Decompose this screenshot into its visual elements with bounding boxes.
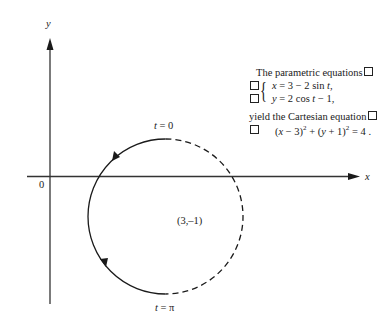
y-axis-arrow-icon [47, 38, 54, 50]
eq-y-end: − 1, [315, 93, 334, 104]
eq-part: + ( [307, 126, 322, 137]
t-pi-value: = π [161, 302, 175, 313]
eq-y-rhs: = 2 cos [277, 93, 313, 104]
origin-label: 0 [39, 180, 44, 191]
eq-part: − 3) [283, 126, 303, 137]
x-axis-arrow-icon [348, 173, 360, 180]
direction-arrow-icon [112, 151, 120, 161]
cartesian-equation: (x − 3)2 + (y + 1)2 = 4 . [275, 125, 371, 138]
placeholder-box-icon [368, 111, 377, 120]
eq-x-rhs: = 3 − 2 sin [277, 80, 327, 91]
annotation-line-1: The parametric equations [256, 67, 374, 79]
t-zero-value: = 0 [160, 120, 174, 131]
eq-x-end: , [330, 80, 333, 91]
circle-solid-arc [88, 139, 166, 294]
center-label: (3,–1) [177, 216, 202, 227]
annotation-box-row1 [249, 81, 260, 93]
y-axis-label: y [46, 19, 51, 30]
t-var: t [155, 302, 158, 313]
eq-part: = 4 . [349, 126, 371, 137]
brace-icon: { [260, 78, 267, 102]
placeholder-box-icon [250, 94, 259, 103]
placeholder-box-icon [250, 81, 259, 90]
eq-part: + 1) [326, 126, 346, 137]
annotation-box-row5 [249, 125, 260, 137]
t-var: t [154, 120, 157, 131]
annotation-text: The parametric equations [256, 67, 363, 78]
equation-y: y = 2 cos t − 1, [272, 94, 334, 105]
annotation-line-4: yield the Cartesian equation [249, 111, 378, 123]
diagram-canvas [0, 0, 391, 330]
direction-arrow-icon [100, 258, 108, 267]
annotation-box-row2 [249, 94, 260, 106]
annotation-text: yield the Cartesian equation [249, 111, 367, 122]
placeholder-box-icon [364, 67, 373, 76]
equation-x: x = 3 − 2 sin t, [272, 81, 333, 92]
x-axis-label: x [365, 172, 370, 183]
t-pi-label: t = π [155, 303, 174, 314]
placeholder-box-icon [250, 125, 259, 134]
t-zero-label: t = 0 [154, 121, 173, 132]
